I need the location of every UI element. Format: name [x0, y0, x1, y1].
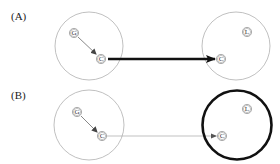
diagram-canvas: (A) G C L C [0, 0, 280, 164]
inner-arrow-a [78, 37, 96, 54]
node-l-b: L [242, 104, 251, 113]
node-g-a: G [69, 28, 78, 37]
left-circle-a [55, 12, 123, 80]
inner-arrow-b [81, 116, 97, 132]
node-c-left-b: C [97, 131, 106, 140]
svg-text:C: C [220, 132, 225, 140]
node-c-left-a: C [96, 54, 105, 63]
right-circle-b [203, 91, 272, 160]
svg-text:G: G [74, 108, 79, 116]
svg-text:G: G [71, 29, 76, 37]
node-l-a: L [242, 27, 251, 36]
node-g-b: G [72, 107, 81, 116]
node-c-right-a: C [216, 54, 225, 63]
panel-b: (B) G C L C [11, 89, 272, 160]
node-c-right-b: C [217, 131, 226, 140]
right-circle-a [202, 12, 270, 80]
panel-label-a: (A) [11, 10, 27, 23]
svg-text:L: L [245, 105, 249, 113]
panel-label-b: (B) [11, 89, 26, 102]
svg-text:L: L [245, 28, 249, 36]
svg-text:C: C [100, 132, 105, 140]
svg-text:C: C [219, 55, 224, 63]
left-circle-b [54, 90, 124, 160]
svg-text:C: C [99, 55, 104, 63]
panel-a: (A) G C L C [11, 10, 270, 80]
